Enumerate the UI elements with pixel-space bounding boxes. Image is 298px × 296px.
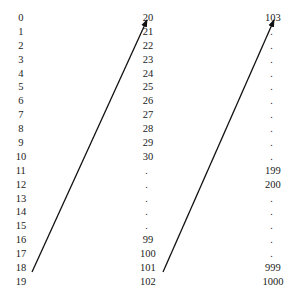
arrow-102-to-103 [163,20,274,272]
arrow-19-to-20 [32,20,147,272]
arrows-layer [0,0,298,296]
